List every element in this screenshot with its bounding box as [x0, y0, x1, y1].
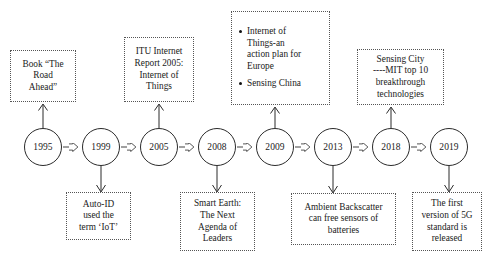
node-year-label: 2008: [207, 142, 226, 152]
callout-line: Smart Earth:: [194, 198, 241, 210]
callout-line: Things: [146, 81, 172, 93]
node-year-label: 1999: [91, 142, 110, 152]
bullet-item: Internet of Things-an action plan for Eu…: [239, 26, 301, 72]
callout-line: Agenda of: [198, 222, 237, 234]
bullet-text: Internet of Things-an action plan for Eu…: [247, 26, 301, 72]
callout-line: ----MIT top 10: [373, 65, 428, 77]
callout-line: Sensing City: [377, 54, 425, 66]
timeline-node-2018[interactable]: 2018: [372, 128, 410, 166]
node-year-label: 2005: [149, 142, 168, 152]
callout-line: version of 5G: [421, 210, 472, 222]
timeline-node-2008[interactable]: 2008: [198, 128, 236, 166]
callout-line: Road: [33, 70, 53, 82]
callout-line: Things-an: [247, 38, 301, 50]
callout-auto-id-iot-term[interactable]: Auto-ID used the term ‘IoT’: [66, 192, 131, 240]
callout-arrows-up: [39, 104, 396, 128]
callout-line: batteries: [328, 225, 360, 237]
bullet-item: Sensing China: [239, 78, 301, 90]
callout-line: technologies: [377, 89, 424, 101]
bullet-dot-icon: [239, 30, 242, 33]
callout-arrows-down: [97, 166, 454, 193]
callout-line: can free sensors of: [309, 213, 378, 225]
timeline-node-1999[interactable]: 1999: [82, 128, 120, 166]
timeline-node-2013[interactable]: 2013: [314, 128, 352, 166]
callout-line: Ahead”: [29, 82, 57, 94]
timeline-node-2019[interactable]: 2019: [430, 128, 468, 166]
callout-line: The first: [431, 198, 463, 210]
timeline-node-2009[interactable]: 2009: [256, 128, 294, 166]
callout-line: released: [432, 233, 462, 245]
callout-line: Internet of: [247, 26, 301, 38]
node-year-label: 2019: [439, 142, 458, 152]
callout-ambient-backscatter[interactable]: Ambient Backscatter can free sensors of …: [291, 193, 396, 245]
callout-smart-earth[interactable]: Smart Earth: The Next Agenda of Leaders: [180, 192, 255, 251]
callout-line: term ‘IoT’: [79, 222, 118, 234]
node-year-label: 2013: [323, 142, 342, 152]
bullet-dot-icon: [239, 82, 242, 85]
node-year-label: 1995: [33, 142, 52, 152]
callout-line: Leaders: [203, 233, 232, 245]
callout-line: Auto-ID: [83, 199, 115, 211]
callout-line: The Next: [200, 210, 235, 222]
callout-line: Book “The: [22, 59, 63, 71]
callout-line: ITU Internet: [136, 46, 183, 58]
callout-line: Europe: [247, 61, 301, 73]
callout-line: Sensing China: [247, 78, 301, 90]
callout-line: Report 2005:: [135, 58, 184, 70]
callout-first-5g-standard[interactable]: The first version of 5G standard is rele…: [412, 192, 482, 251]
callout-line: action plan for: [247, 49, 301, 61]
callout-sensing-city-mit[interactable]: Sensing City ----MIT top 10 breakthrough…: [357, 49, 444, 105]
timeline-node-2005[interactable]: 2005: [140, 128, 178, 166]
bullet-text: Sensing China: [247, 78, 301, 90]
callout-line: breakthrough: [376, 77, 426, 89]
callout-line: used the: [83, 210, 114, 222]
callout-itu-internet-report[interactable]: ITU Internet Report 2005: Internet of Th…: [124, 37, 194, 102]
node-year-label: 2009: [265, 142, 284, 152]
callout-line: standard is: [427, 222, 467, 234]
timeline-diagram: 1995 1999 2005 2008 2009 2013 2018 2019 …: [0, 0, 492, 265]
callout-iot-action-plan-sensing-china[interactable]: Internet of Things-an action plan for Eu…: [231, 11, 330, 105]
node-year-label: 2018: [381, 142, 400, 152]
callout-line: Internet of: [140, 70, 179, 82]
callout-book-road-ahead[interactable]: Book “The Road Ahead”: [10, 50, 76, 102]
callout-line: Ambient Backscatter: [304, 202, 382, 214]
timeline-node-1995[interactable]: 1995: [24, 128, 62, 166]
